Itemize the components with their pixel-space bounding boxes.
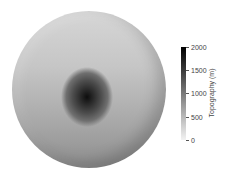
colorbar-tick (186, 47, 189, 48)
colorbar-tick (186, 93, 189, 94)
colorbar-tick (186, 70, 189, 71)
topography-sphere (12, 11, 166, 168)
colorbar-tick (186, 140, 189, 141)
colorbar-tick-label: 1000 (191, 90, 207, 97)
figure: 2000 1500 1000 500 0 Topography (m) (0, 0, 230, 174)
colorbar-tick-label: 2000 (191, 44, 207, 51)
colorbar-label: Topography (m) (208, 68, 215, 117)
colorbar-tick (186, 117, 189, 118)
colorbar-tick-label: 500 (191, 114, 203, 121)
colorbar-tick-label: 0 (191, 137, 195, 144)
colorbar-tick-label: 1500 (191, 67, 207, 74)
